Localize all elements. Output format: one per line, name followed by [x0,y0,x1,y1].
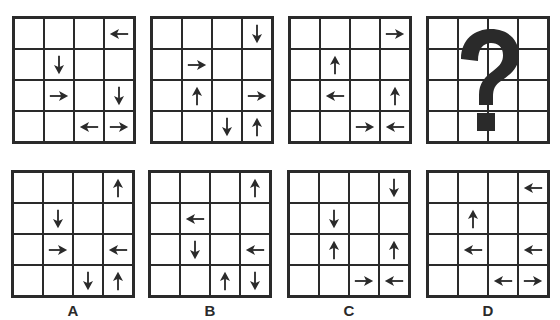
grid-cell [74,80,104,111]
arrow-down-icon [184,239,206,261]
arrow-down-icon [216,116,238,138]
arrow-left-icon [384,116,406,138]
option-label-c: C [287,302,411,319]
grid-cell [182,49,212,80]
grid-cell [488,18,518,49]
grid-cell [240,203,270,234]
grid-cell [379,234,409,265]
arrow-down-icon [383,177,405,199]
grid-cell [319,234,349,265]
grid-cell [14,18,44,49]
grid-cell [152,49,182,80]
grid-cell [350,18,380,49]
grid-cell [320,111,350,142]
arrow-up-icon [107,177,129,199]
option-grid-b[interactable] [148,170,272,298]
grid-cell [350,80,380,111]
grid-cell [212,18,242,49]
grid-cell [518,18,548,49]
grid-cell [73,265,103,296]
grid-cell [13,203,43,234]
grid-cell [13,234,43,265]
grid-cell [320,49,350,80]
grid-cell [180,234,210,265]
grid-cell [210,172,240,203]
grid-cell [150,203,180,234]
arrow-right-icon [522,270,544,292]
arrow-left-icon [184,208,206,230]
question-grid-2 [150,16,274,144]
grid-cell [14,49,44,80]
grid-cell [44,18,74,49]
grid-cell [240,234,270,265]
grid-cell [103,234,133,265]
arrow-right-icon [186,54,208,76]
grid-cell [488,172,518,203]
grid-cell [150,234,180,265]
arrow-down-icon [47,208,69,230]
grid-cell [350,111,380,142]
grid-cell [104,111,134,142]
grid-cell [458,203,488,234]
grid-cell [182,80,212,111]
grid-cell [290,49,320,80]
grid-cell [13,172,43,203]
grid-cell [242,18,272,49]
grid-cell [290,18,320,49]
grid-cell [14,111,44,142]
option-grid-c[interactable] [287,170,411,298]
grid-cell [103,203,133,234]
grid-cell [319,203,349,234]
grid-cell [74,49,104,80]
arrow-left-icon [107,239,129,261]
grid-cell [289,265,319,296]
grid-cell [350,49,380,80]
grid-cell [428,265,458,296]
option-label-d: D [426,302,550,319]
grid-cell [320,18,350,49]
arrow-up-icon [462,208,484,230]
arrow-left-icon [522,239,544,261]
grid-cell [380,111,410,142]
grid-cell [380,18,410,49]
grid-cell [242,80,272,111]
arrow-left-icon [78,116,100,138]
grid-cell [210,265,240,296]
arrow-down-icon [48,54,70,76]
grid-cell [518,265,548,296]
grid-cell [290,111,320,142]
grid-cell [458,234,488,265]
arrow-down-icon [108,85,130,107]
arrow-down-icon [244,270,266,292]
option-grid-a[interactable] [11,170,135,298]
question-grid-1 [12,16,136,144]
grid-cell [150,172,180,203]
grid-cell [488,265,518,296]
grid-cell [428,18,458,49]
grid-cell [103,265,133,296]
grid-cell [104,18,134,49]
arrow-left-icon [492,270,514,292]
grid-cell [43,265,73,296]
grid-cell [240,172,270,203]
grid-cell [458,49,488,80]
grid-cell [212,80,242,111]
grid-cell [379,203,409,234]
grid-cell [104,80,134,111]
grid-cell [212,49,242,80]
grid-cell [212,111,242,142]
grid-cell [289,172,319,203]
arrow-up-icon [324,54,346,76]
grid-cell [458,111,488,142]
grid-cell [43,172,73,203]
grid-cell [319,265,349,296]
grid-cell [182,111,212,142]
option-grid-d[interactable] [426,170,550,298]
grid-cell [319,172,349,203]
grid-cell [349,265,379,296]
grid-cell [518,172,548,203]
grid-cell [379,265,409,296]
grid-cell [380,80,410,111]
arrow-right-icon [353,270,375,292]
grid-cell [488,111,518,142]
